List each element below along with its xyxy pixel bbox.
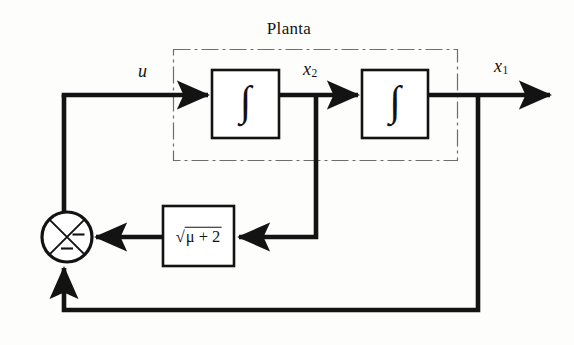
signal-label-x2-subscript: 2: [311, 67, 317, 79]
signal-label-u: u: [138, 62, 147, 80]
integrator-1-symbol: ∫: [237, 78, 254, 127]
signal-label-x1-base: x: [494, 56, 502, 76]
signal-label-x2: x2: [303, 60, 317, 80]
integrator-2-symbol: ∫: [386, 78, 403, 127]
diagram-vector-layer: ∫ ∫: [0, 0, 574, 345]
signal-label-x1-subscript: 1: [502, 64, 508, 76]
block-diagram-canvas: ∫ ∫ Planta u x2 x1 √μ + 2: [0, 0, 574, 345]
radicand-expression: μ + 2: [184, 227, 221, 246]
gain-block-label: √μ + 2: [175, 227, 222, 246]
signal-label-x2-base: x: [303, 59, 311, 79]
signal-label-x1: x1: [494, 57, 508, 77]
radical-sign: √: [175, 229, 185, 246]
plant-title: Planta: [267, 20, 311, 37]
